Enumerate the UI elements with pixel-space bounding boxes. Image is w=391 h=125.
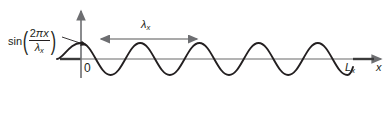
x-axis-label-text: x [376, 61, 382, 73]
formula-denominator-subscript: x [40, 46, 44, 55]
formula-open-paren: ( [23, 31, 28, 52]
formula-denominator: λx [34, 41, 45, 55]
formula-numerator-variable: x [43, 27, 49, 39]
formula-label: sin ( 2πx λx ) [8, 28, 56, 55]
formula-fraction: 2πx λx [29, 28, 50, 55]
formula-function: sin [8, 36, 22, 47]
figure-canvas [0, 0, 391, 125]
formula-pointer-arrow [62, 37, 86, 45]
sine-wave-figure: sin ( 2πx λx ) 0 λx Lx x [0, 0, 391, 125]
origin-label: 0 [84, 62, 91, 74]
wavelength-label: λx [141, 19, 150, 32]
length-subscript: x [351, 66, 355, 75]
formula-numerator: 2πx [29, 28, 50, 40]
x-axis-label: x [376, 62, 382, 73]
wavelength-subscript: x [146, 23, 150, 32]
formula-close-paren: ) [50, 31, 55, 52]
length-label: Lx [345, 62, 355, 75]
